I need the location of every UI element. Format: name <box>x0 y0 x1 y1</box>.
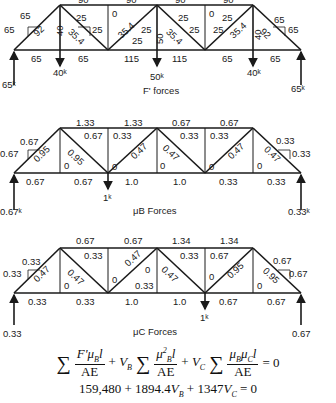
svg-text:0: 0 <box>160 160 165 171</box>
svg-text:1.33: 1.33 <box>124 117 143 128</box>
svg-text:0.67: 0.67 <box>84 130 103 141</box>
truss-f-prime-labels: 9090 9090 6565 115115 6565 6565 92 40 25… <box>2 0 306 96</box>
svg-text:1.0: 1.0 <box>173 296 186 307</box>
svg-text:0: 0 <box>64 280 69 291</box>
svg-text:0.67: 0.67 <box>76 235 95 246</box>
svg-text:0.33: 0.33 <box>180 250 199 261</box>
svg-text:65: 65 <box>270 53 281 64</box>
svg-text:0.67: 0.67 <box>172 117 191 128</box>
svg-text:F' forces: F' forces <box>143 85 179 96</box>
svg-text:0: 0 <box>145 264 150 275</box>
svg-text:65: 65 <box>288 24 299 35</box>
svg-text:115: 115 <box>124 53 139 64</box>
svg-text:65ᵏ: 65ᵏ <box>2 79 17 90</box>
svg-text:0.33: 0.33 <box>219 176 238 187</box>
svg-text:25: 25 <box>213 24 224 35</box>
svg-text:0.33: 0.33 <box>76 296 95 307</box>
svg-text:115: 115 <box>172 53 187 64</box>
svg-text:0.33: 0.33 <box>180 130 199 141</box>
svg-text:0.47: 0.47 <box>262 144 283 165</box>
svg-text:0: 0 <box>112 274 117 285</box>
svg-text:0.47: 0.47 <box>225 141 246 162</box>
svg-text:0: 0 <box>257 160 262 171</box>
svg-text:0.33: 0.33 <box>22 256 41 267</box>
svg-text:90: 90 <box>223 0 234 5</box>
svg-text:0.33: 0.33 <box>267 176 286 187</box>
svg-text:0.67: 0.67 <box>74 176 93 187</box>
svg-text:0.67: 0.67 <box>20 136 39 147</box>
svg-text:0: 0 <box>257 280 262 291</box>
svg-text:25: 25 <box>178 12 189 23</box>
svg-text:0.47: 0.47 <box>128 141 149 162</box>
svg-text:0.33: 0.33 <box>113 130 132 141</box>
svg-text:0.33: 0.33 <box>3 268 22 279</box>
svg-text:1ᵏ: 1ᵏ <box>103 192 112 203</box>
svg-text:90: 90 <box>175 0 186 5</box>
svg-text:0.67ᵏ: 0.67ᵏ <box>0 206 22 217</box>
svg-text:1.0: 1.0 <box>173 176 186 187</box>
equation-compatibility: ∑ F'μBlAE + VB ∑ μ2BlAE + VC ∑ μBμClAE =… <box>0 347 336 379</box>
svg-text:0.33: 0.33 <box>28 296 47 307</box>
svg-text:0.33: 0.33 <box>3 328 22 339</box>
svg-text:65: 65 <box>4 24 15 35</box>
svg-text:1.0: 1.0 <box>125 296 138 307</box>
svg-text:0.67: 0.67 <box>0 148 19 159</box>
svg-text:25: 25 <box>76 12 87 23</box>
truss-mu-b-labels: 1.33 1.33 0.67 0.67 0.670.67 1.01.0 0.33… <box>0 117 311 217</box>
svg-text:0.33: 0.33 <box>84 250 103 261</box>
svg-text:90: 90 <box>126 0 137 5</box>
svg-text:1.33: 1.33 <box>76 117 95 128</box>
svg-text:50: 50 <box>154 33 165 44</box>
svg-text:0.67: 0.67 <box>26 176 45 187</box>
svg-text:25: 25 <box>92 24 103 35</box>
svg-text:35.4: 35.4 <box>227 20 248 41</box>
svg-text:0.33: 0.33 <box>210 130 229 141</box>
svg-text:0: 0 <box>112 8 117 19</box>
svg-text:65: 65 <box>222 53 233 64</box>
svg-text:1ᵏ: 1ᵏ <box>200 312 209 323</box>
svg-text:65: 65 <box>274 14 285 25</box>
svg-text:μC Forces: μC Forces <box>133 326 177 337</box>
svg-text:50ᵏ: 50ᵏ <box>150 71 165 82</box>
svg-text:1.0: 1.0 <box>125 176 138 187</box>
svg-text:0: 0 <box>209 161 214 172</box>
svg-text:μB Forces: μB Forces <box>133 205 177 216</box>
truss-figure: 9090 9090 6565 115115 6565 6565 92 40 25… <box>0 0 336 403</box>
svg-text:0.33: 0.33 <box>276 135 295 146</box>
svg-text:1.34: 1.34 <box>220 235 239 246</box>
svg-text:0.33ᵏ: 0.33ᵏ <box>288 206 310 217</box>
svg-text:0.67: 0.67 <box>289 268 308 279</box>
svg-text:65: 65 <box>20 10 31 21</box>
svg-text:65: 65 <box>78 53 89 64</box>
svg-text:0.67: 0.67 <box>273 255 292 266</box>
svg-text:0: 0 <box>112 161 117 172</box>
svg-text:25: 25 <box>132 35 143 46</box>
svg-text:0.33: 0.33 <box>135 280 154 291</box>
svg-text:0.67: 0.67 <box>220 117 239 128</box>
svg-text:0.47: 0.47 <box>122 248 143 269</box>
svg-text:25: 25 <box>222 12 233 23</box>
svg-text:25: 25 <box>141 24 152 35</box>
svg-text:0: 0 <box>209 271 214 282</box>
svg-text:40ᵏ: 40ᵏ <box>53 67 68 78</box>
svg-text:0: 0 <box>209 8 214 19</box>
svg-text:25: 25 <box>189 24 200 35</box>
svg-text:0.67: 0.67 <box>219 296 238 307</box>
svg-text:0.67: 0.67 <box>267 296 286 307</box>
svg-text:40ᵏ: 40ᵏ <box>247 67 262 78</box>
svg-text:65: 65 <box>31 53 42 64</box>
svg-text:0.67: 0.67 <box>124 235 143 246</box>
svg-text:0.67: 0.67 <box>292 328 311 339</box>
equation-numeric: 159,480 + 1894.4VB + 1347VC = 0 <box>0 381 336 399</box>
svg-text:0: 0 <box>64 160 69 171</box>
svg-text:90: 90 <box>78 0 89 5</box>
svg-text:65ᵏ: 65ᵏ <box>291 83 306 94</box>
svg-text:35.4: 35.4 <box>66 26 87 47</box>
svg-text:1.34: 1.34 <box>172 235 191 246</box>
svg-text:0.95: 0.95 <box>261 265 282 286</box>
svg-text:92: 92 <box>31 23 46 38</box>
svg-text:0.67: 0.67 <box>210 250 229 261</box>
svg-text:40: 40 <box>54 25 65 36</box>
svg-text:0.33: 0.33 <box>292 148 311 159</box>
svg-text:0.95: 0.95 <box>225 260 246 281</box>
